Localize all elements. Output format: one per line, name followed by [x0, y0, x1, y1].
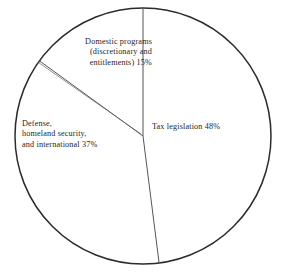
slice-label-tax-legislation: Tax legislation 48%: [152, 122, 220, 132]
pie-chart-figure: Domestic programs (discretionary and ent…: [0, 0, 283, 274]
slice-label-defense-line-3: and international 37%: [22, 140, 142, 150]
slice-label-domestic-line-3: entitlements) 15%: [52, 58, 152, 68]
slice-label-domestic-line-1: Domestic programs: [52, 37, 152, 47]
slice-label-defense-line-2: homeland security,: [22, 129, 142, 139]
slice-label-domestic-line-2: (discretionary and: [52, 47, 152, 57]
slice-label-tax-line-1: Tax legislation 48%: [152, 122, 220, 132]
slice-label-defense-line-1: Defense,: [22, 119, 142, 129]
slice-label-domestic-programs: Domestic programs (discretionary and ent…: [52, 37, 152, 68]
slice-label-defense: Defense, homeland security, and internat…: [22, 119, 142, 150]
